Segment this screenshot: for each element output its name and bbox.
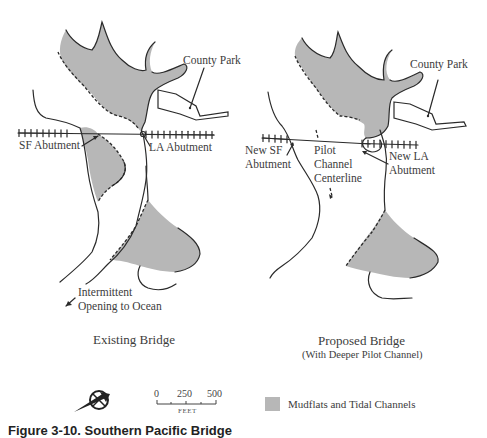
county-park-label-proposed: County Park [410,58,468,71]
railroad-ticks-existing-left [19,130,72,137]
pilot-channel-label-line3: Centerline [314,172,362,185]
mudflat-upper-existing [60,22,187,134]
county-park-label-existing: County Park [183,54,241,67]
new-la-abutment-label-line2: Abutment [389,164,435,177]
pilot-channel-label-line2: Channel [314,158,352,171]
scale-unit-label: FEET [178,407,197,415]
opening-label-line1: Intermittent [78,286,132,299]
existing-bridge-title: Existing Bridge [93,332,175,348]
legend-mudflats-label: Mudflats and Tidal Channels [288,398,415,410]
sf-abutment-label: SF Abutment [19,139,80,152]
scale-tick-0: 0 [154,388,159,399]
scale-tick-500: 500 [207,388,222,399]
new-la-abutment-label-line1: New LA [389,150,429,163]
opening-label-line2: Opening to Ocean [78,300,162,313]
proposed-bridge-map [262,32,466,299]
proposed-bridge-title: Proposed Bridge [318,333,405,349]
railroad-ticks-proposed-right [362,140,418,148]
proposed-bridge-subtitle: (With Deeper Pilot Channel) [302,349,423,360]
new-sf-abutment-label-line1: New SF [245,144,282,157]
railroad-track [146,135,214,136]
pilot-channel-label-line1: Pilot [314,144,336,157]
mudflat-lower-existing [110,200,200,272]
mudflat-swatch-icon [265,397,280,411]
county-park-proposed [394,102,466,130]
railroad-ticks-existing-right [146,131,214,138]
railroad-track [263,138,290,140]
mudflat-upper-proposed [295,32,423,138]
scale-bar [157,400,216,404]
county-park-existing [158,90,228,120]
new-sf-abutment-label-line2: Abutment [245,158,291,171]
scale-tick-250: 250 [177,388,192,399]
la-abutment-label: LA Abutment [149,141,212,154]
north-arrow-compass-icon [74,391,110,412]
railroad-ticks-proposed-left [263,135,290,143]
figure-caption: Figure 3-10. Southern Pacific Bridge [8,423,232,438]
railroad-track [19,133,72,134]
